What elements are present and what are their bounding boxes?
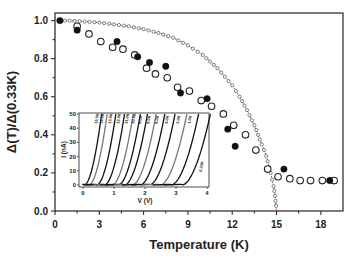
filled-circle-point <box>57 17 63 23</box>
bcs-fit-marker <box>274 204 277 207</box>
inset-y-tick-label: 40 <box>69 125 76 131</box>
open-circle-point <box>319 177 326 184</box>
inset-x-axis-title: V (V) <box>138 197 153 205</box>
open-circle-point <box>174 84 181 91</box>
bcs-fit-marker <box>117 23 120 26</box>
bcs-fit-marker <box>201 53 204 56</box>
open-circle-point <box>275 173 282 180</box>
bcs-fit-marker <box>147 29 150 32</box>
bcs-fit-marker <box>186 44 189 47</box>
bcs-fit-marker <box>212 63 215 66</box>
bcs-fit-marker <box>137 27 140 30</box>
bcs-fit-marker <box>103 22 106 25</box>
bcs-fit-marker <box>272 185 275 188</box>
bcs-fit-marker <box>271 178 274 181</box>
y-tick-label: 0.8 <box>34 53 48 64</box>
x-tick-label: 9 <box>185 219 191 230</box>
bcs-fit-marker <box>127 25 130 28</box>
open-circle-point <box>242 132 249 139</box>
inset-iv-curves: 15.0K14.0K13.0K12.0K11.0K10.0K9.0K8.0K6.… <box>60 110 212 208</box>
bcs-fit-marker <box>208 60 211 63</box>
inset-y-tick-label: 30 <box>69 139 76 145</box>
bcs-fit-marker <box>205 57 208 60</box>
bcs-fit-marker <box>248 114 251 117</box>
bcs-fit-marker <box>238 95 241 98</box>
bcs-fit-marker <box>262 148 265 151</box>
bcs-fit-marker <box>83 20 86 23</box>
open-circle-point <box>86 31 93 38</box>
bcs-fit-marker <box>122 24 125 27</box>
bcs-fit-marker <box>63 19 66 22</box>
open-circle-point <box>97 38 104 45</box>
y-tick-label: 0.4 <box>34 129 48 140</box>
bcs-fit-marker <box>253 124 256 127</box>
open-circle-point <box>164 74 171 81</box>
bcs-fit-marker <box>112 23 115 26</box>
bcs-fit-marker <box>157 31 160 34</box>
open-circle-point <box>307 177 314 184</box>
filled-circle-point <box>281 166 287 172</box>
bcs-fit-marker <box>274 199 277 202</box>
bcs-fit-marker <box>234 89 237 92</box>
filled-circle-point <box>135 54 141 60</box>
x-tick-label: 12 <box>227 219 239 230</box>
bcs-fit-marker <box>273 194 276 197</box>
bcs-fit-marker <box>191 47 194 50</box>
open-circle-point <box>253 147 260 154</box>
y-tick-label: 0.2 <box>34 167 48 178</box>
filled-circle-point <box>74 27 80 33</box>
bcs-fit-marker <box>78 20 81 23</box>
open-circle-point <box>264 166 271 173</box>
bcs-fit-marker <box>231 84 234 87</box>
open-circle-point <box>208 103 215 110</box>
bcs-fit-marker <box>216 67 219 70</box>
bcs-fit-marker <box>172 36 175 39</box>
open-circle-point <box>152 71 159 78</box>
y-axis-title: Δ(T)/Δ(0.33K) <box>4 71 19 153</box>
filled-circle-point <box>204 95 210 101</box>
bcs-fit-marker <box>260 143 263 146</box>
bcs-fit-marker <box>240 100 243 103</box>
open-circle-point <box>287 175 294 182</box>
inset-y-tick-label: 50 <box>69 111 76 117</box>
filled-circle-point <box>177 90 183 96</box>
bcs-fit-marker <box>256 133 259 136</box>
open-circle-point <box>109 44 116 51</box>
filled-circle-point <box>232 143 238 149</box>
inset-y-tick-label: 10 <box>69 168 76 174</box>
bcs-fit-marker <box>181 41 184 44</box>
open-circle-point <box>297 177 304 184</box>
y-tick-label: 0.0 <box>34 206 48 217</box>
x-tick-label: 18 <box>315 219 327 230</box>
y-tick-label: 0.6 <box>34 91 48 102</box>
chart-container: 03691215180.00.20.40.60.81.0Temperature … <box>0 0 357 257</box>
bcs-fit-marker <box>108 22 111 25</box>
bcs-fit-marker <box>93 21 96 24</box>
bcs-fit-marker <box>266 160 269 163</box>
inset-y-axis-title: I (nA) <box>60 141 68 158</box>
open-circle-point <box>186 88 193 95</box>
bcs-fit-marker <box>152 30 155 33</box>
y-tick-label: 1.0 <box>34 15 48 26</box>
bcs-fit-marker <box>265 154 268 157</box>
bcs-fit-marker <box>250 119 253 122</box>
bcs-fit-marker <box>68 19 71 22</box>
bcs-fit-marker <box>227 79 230 82</box>
filled-circle-point <box>146 59 152 65</box>
bcs-fit-marker <box>98 21 101 24</box>
x-axis-title: Temperature (K) <box>149 237 248 252</box>
x-tick-label: 6 <box>141 219 147 230</box>
open-circle-point <box>120 46 127 53</box>
open-circle-point <box>230 122 237 129</box>
x-tick-label: 15 <box>271 219 283 230</box>
bcs-fit-marker <box>258 138 261 141</box>
bcs-fit-marker <box>243 104 246 107</box>
gap-vs-temperature-chart: 03691215180.00.20.40.60.81.0Temperature … <box>0 0 357 257</box>
bcs-fit-marker <box>255 128 258 131</box>
bcs-fit-marker <box>132 26 135 29</box>
filled-circle-point <box>114 38 120 44</box>
bcs-fit-marker <box>142 28 145 31</box>
bcs-fit-marker <box>273 189 276 192</box>
filled-circle-point <box>327 177 333 183</box>
open-circle-point <box>198 97 205 104</box>
